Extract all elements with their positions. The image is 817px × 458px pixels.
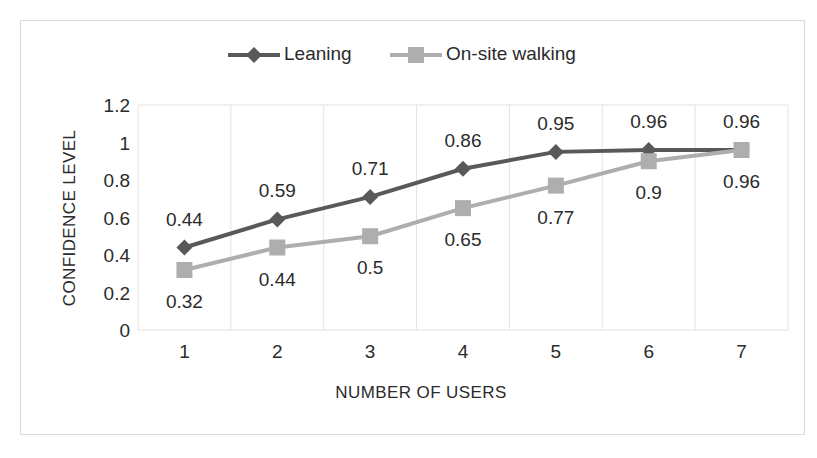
data-label: 0.95	[537, 113, 574, 134]
data-label: 0.32	[166, 291, 203, 312]
data-label: 0.44	[259, 269, 296, 290]
data-label: 0.96	[723, 171, 760, 192]
legend-item-leaning[interactable]: Leaning	[228, 43, 352, 64]
square-marker	[641, 153, 657, 169]
x-axis-tick-labels: 1234567	[179, 341, 747, 362]
square-marker	[548, 178, 564, 194]
square-marker	[269, 240, 285, 256]
y-axis-tick-labels: 00.20.40.60.811.2	[104, 95, 131, 341]
x-axis-tick: 7	[736, 341, 747, 362]
y-axis-tick: 0.8	[104, 170, 130, 191]
x-axis-tick: 4	[458, 341, 469, 362]
y-axis-tick: 0.6	[104, 208, 130, 229]
square-marker	[362, 228, 378, 244]
data-label: 0.59	[259, 180, 296, 201]
data-label: 0.86	[445, 130, 482, 151]
y-axis-tick: 1.2	[104, 95, 130, 116]
data-label: 0.5	[357, 257, 383, 278]
x-axis-title: NUMBER OF USERS	[335, 383, 506, 402]
data-label: 0.65	[445, 229, 482, 250]
y-axis-tick: 1	[119, 133, 130, 154]
square-marker	[734, 142, 750, 158]
x-axis-tick: 5	[551, 341, 562, 362]
y-axis-tick: 0.4	[104, 245, 131, 266]
y-axis-tick: 0	[119, 320, 130, 341]
y-axis-tick: 0.2	[104, 283, 130, 304]
chart-legend: LeaningOn-site walking	[228, 43, 576, 64]
line-chart: 0.440.590.710.860.950.960.960.320.440.50…	[0, 0, 817, 458]
square-marker	[408, 47, 424, 63]
square-marker	[176, 262, 192, 278]
data-label: 0.77	[537, 207, 574, 228]
data-label: 0.96	[723, 111, 760, 132]
y-axis-title: CONFIDENCE LEVEL	[60, 130, 79, 306]
chart-container: 0.440.590.710.860.950.960.960.320.440.50…	[0, 0, 817, 458]
x-axis-tick: 1	[179, 341, 190, 362]
data-label: 0.44	[166, 209, 203, 230]
data-label: 0.71	[352, 158, 389, 179]
data-label: 0.96	[630, 111, 667, 132]
data-label: 0.9	[636, 182, 662, 203]
legend-label: Leaning	[284, 43, 352, 64]
x-axis-tick: 2	[272, 341, 283, 362]
x-axis-tick: 3	[365, 341, 376, 362]
legend-label: On-site walking	[446, 43, 576, 64]
legend-item-on-site-walking[interactable]: On-site walking	[390, 43, 576, 64]
diamond-marker	[246, 47, 262, 63]
x-axis-tick: 6	[643, 341, 654, 362]
square-marker	[455, 200, 471, 216]
